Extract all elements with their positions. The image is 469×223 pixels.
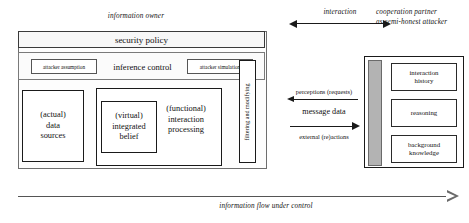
- integrated-belief-line-2: integrated: [112, 122, 145, 133]
- data-sources-line-1: (actual): [40, 110, 66, 121]
- filtering-and-modifying-label: filtering and modifying: [245, 83, 251, 140]
- integrated-belief-box: (virtual) integrated belief: [101, 101, 157, 153]
- attacker-assumption-box: attacker assumption: [31, 59, 97, 74]
- interaction-history-line-1: interaction: [409, 69, 438, 77]
- cooperation-partner-line-1: cooperation partner: [376, 7, 469, 17]
- external-reactions-arrow-head-icon: [352, 122, 360, 130]
- information-flow-line: [18, 196, 450, 197]
- background-knowledge-box: background knowledge: [391, 135, 457, 163]
- data-sources-line-3: sources: [40, 131, 66, 142]
- information-flow-arrow-head-inner: [446, 192, 455, 200]
- perceptions-arrow-head-icon: [287, 96, 294, 102]
- security-policy-bar: security policy: [18, 31, 265, 48]
- interaction-processing-line-1: (functional): [166, 104, 206, 115]
- background-knowledge-line-1: background: [408, 141, 440, 149]
- interaction-processing-outer-box: (functional) interaction processing (vir…: [96, 88, 222, 166]
- external-reactions-label: external (re)actions: [286, 133, 362, 140]
- filtering-and-modifying-strip: filtering and modifying: [239, 60, 256, 163]
- perceptions-requests-label: perceptions (requests): [286, 88, 362, 95]
- interaction-processing-line-3: processing: [166, 125, 206, 136]
- interaction-processing-label: (functional) interaction processing: [153, 95, 219, 145]
- data-sources-box: (actual) data sources: [22, 90, 84, 162]
- interaction-arrow-line: [296, 23, 384, 24]
- interaction-processing-line-2: interaction: [166, 115, 206, 126]
- arrow-head-left-icon: [289, 20, 297, 28]
- cooperation-partner-panel: interaction history reasoning background…: [364, 56, 464, 168]
- label-information-owner: information owner: [74, 12, 198, 20]
- data-sources-line-2: data: [40, 121, 66, 132]
- cooperation-partner-line-2: as semi-honest attacker: [376, 17, 469, 27]
- external-reactions-arrow-line: [290, 126, 356, 127]
- information-flow-label: information flow under control: [186, 202, 346, 210]
- partner-interface-bar: [368, 60, 382, 166]
- interaction-history-box: interaction history: [391, 63, 457, 91]
- reasoning-box: reasoning: [391, 99, 457, 127]
- integrated-belief-line-1: (virtual): [112, 111, 145, 122]
- interaction-history-line-2: history: [409, 77, 438, 85]
- label-cooperation-partner: cooperation partner as semi-honest attac…: [376, 7, 469, 28]
- diagram-canvas: information owner interaction cooperatio…: [0, 0, 469, 223]
- inference-control-band: inference control attacker assumption at…: [18, 52, 265, 80]
- message-exchange-group: perceptions (requests) message data exte…: [286, 88, 362, 146]
- message-data-label: message data: [286, 107, 362, 116]
- perceptions-arrow-line: [290, 99, 358, 100]
- background-knowledge-line-2: knowledge: [408, 149, 440, 157]
- integrated-belief-line-3: belief: [112, 132, 145, 143]
